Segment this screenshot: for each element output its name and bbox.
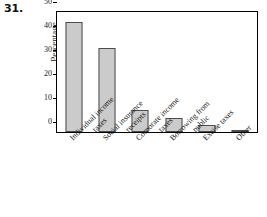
figure: 31. Percentage 01020304050 Individual in…: [0, 0, 267, 217]
y-tick-label: 10: [44, 93, 52, 103]
y-tick-label: 30: [44, 45, 52, 55]
y-tick-label: 20: [44, 69, 52, 79]
y-tick-mark: [53, 2, 57, 3]
y-tick-label: 40: [44, 21, 52, 31]
y-tick-label: 0: [48, 117, 52, 127]
y-tick-label: 50: [44, 0, 52, 7]
bar-slot: [57, 12, 90, 132]
problem-number: 31.: [4, 3, 23, 15]
bar[interactable]: [65, 22, 82, 132]
